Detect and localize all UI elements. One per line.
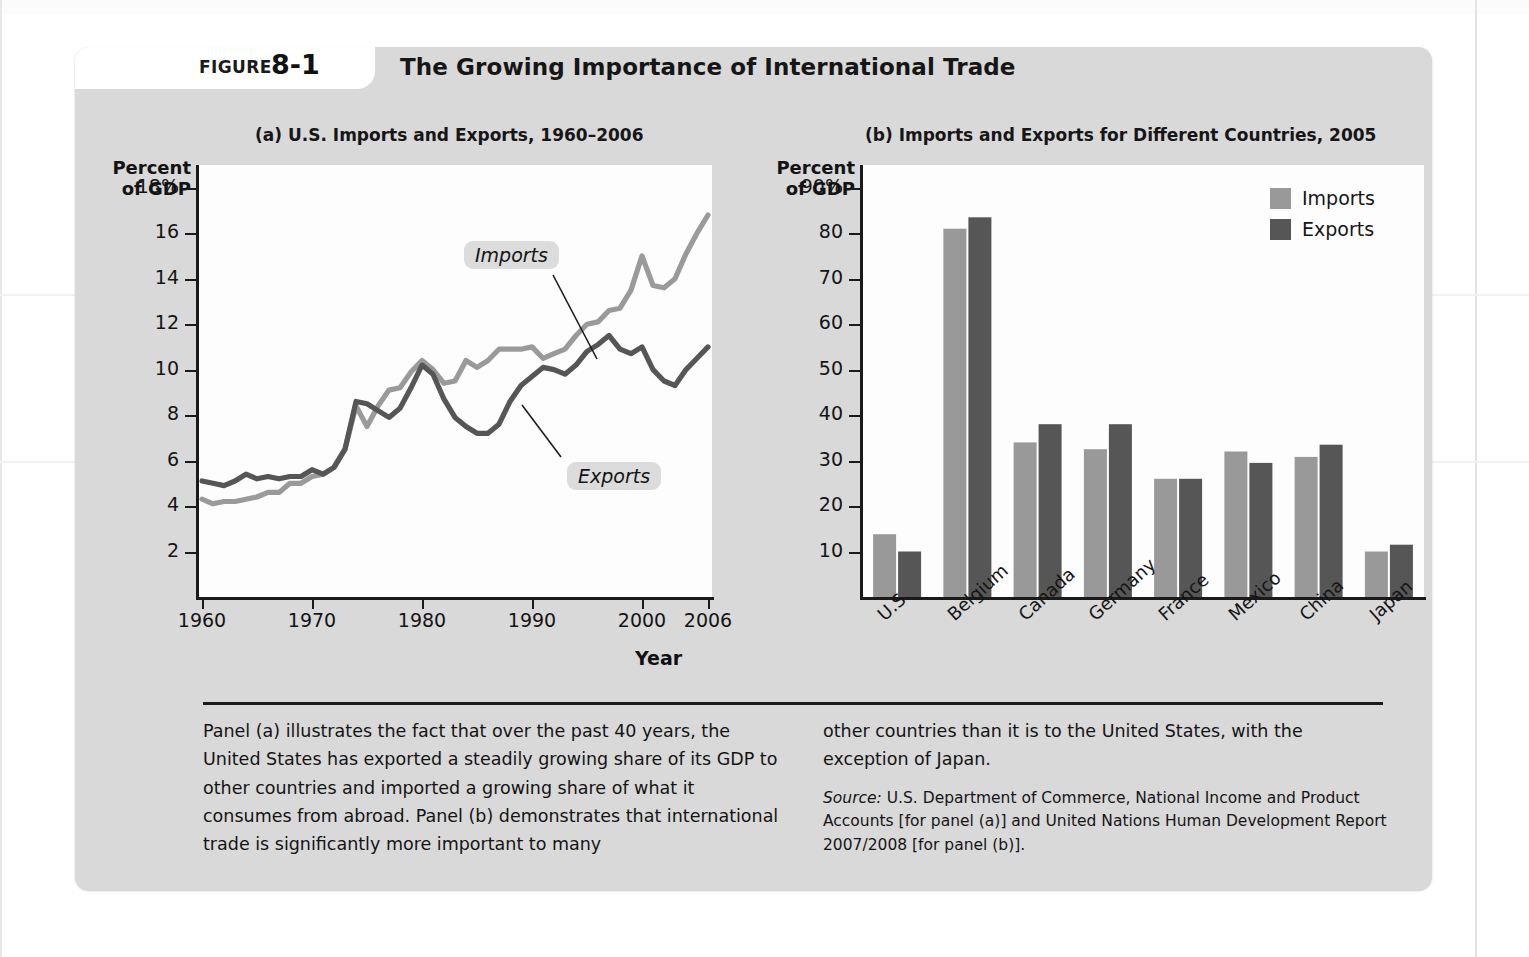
page-edge-right xyxy=(1475,0,1477,957)
panel-a-x-tick xyxy=(642,597,644,609)
panel-a-y-tick-label: 10 xyxy=(115,357,179,379)
panel-b-y-tick xyxy=(849,415,861,417)
panel-b-y-tick-label: 80 xyxy=(775,220,843,242)
panel-a-x-axis-name: Year xyxy=(635,647,682,669)
panel-a-x-tick-label: 1990 xyxy=(492,609,572,631)
figure-number: 8-1 xyxy=(271,49,320,80)
panel-a-y-tick-label: 14 xyxy=(115,266,179,288)
panel-a-y-tick xyxy=(185,188,197,190)
panel-a-x-tick-label: 2006 xyxy=(668,609,748,631)
panel-a-x-tick-label: 1960 xyxy=(162,609,242,631)
panel-b-y-tick xyxy=(849,461,861,463)
panel-b-y-tick xyxy=(849,233,861,235)
panel-b-x-axis xyxy=(860,597,1426,600)
panel-b-y-tick xyxy=(849,370,861,372)
panel-a-y-tick-label: 8 xyxy=(115,402,179,424)
scan-artifact-top xyxy=(0,0,1529,14)
panel-b-y-tick-label: 50 xyxy=(775,357,843,379)
panel-a-y-tick-label: 12 xyxy=(115,311,179,333)
panel-b-y-tick-label: 30 xyxy=(775,448,843,470)
panel-a-y-tick xyxy=(185,461,197,463)
panel-b-title: (b) Imports and Exports for Different Co… xyxy=(865,125,1376,145)
source-note: Source: U.S. Department of Commerce, Nat… xyxy=(823,787,1393,857)
callout-exports: Exports xyxy=(567,462,661,490)
figure-label: FIGURE xyxy=(199,57,272,77)
panel-b-legend: ImportsExports xyxy=(1270,187,1375,249)
panel-a-y-tick xyxy=(185,552,197,554)
legend-item: Exports xyxy=(1270,218,1375,240)
panel-a-y-tick xyxy=(185,233,197,235)
caption-left-column: Panel (a) illustrates the fact that over… xyxy=(203,717,781,859)
panel-a-y-tick-label: 4 xyxy=(115,493,179,515)
panel-a-x-tick xyxy=(202,597,204,609)
panel-b-y-tick-label: 90% xyxy=(775,175,843,197)
panel-a-y-tick-label: 2 xyxy=(115,539,179,561)
panel-a-y-tick xyxy=(185,370,197,372)
legend-swatch xyxy=(1270,188,1291,209)
caption-right-column: other countries than it is to the United… xyxy=(823,717,1383,774)
legend-item: Imports xyxy=(1270,187,1375,209)
panel-a-y-tick-label: 18% xyxy=(115,175,179,197)
panel-a-plot-area xyxy=(198,165,712,597)
panel-a-y-tick xyxy=(185,506,197,508)
panel-b-y-tick-label: 10 xyxy=(775,539,843,561)
panel-a-x-tick-label: 1970 xyxy=(272,609,352,631)
panel-a-y-tick xyxy=(185,279,197,281)
panel-a-x-tick xyxy=(532,597,534,609)
caption-divider xyxy=(203,702,1383,705)
legend-label: Exports xyxy=(1302,218,1374,240)
panel-b-y-tick xyxy=(849,506,861,508)
panel-b-y-tick-label: 60 xyxy=(775,311,843,333)
panel-a-x-axis xyxy=(196,597,714,600)
figure-title: The Growing Importance of International … xyxy=(400,54,1016,80)
legend-swatch xyxy=(1270,219,1291,240)
legend-label: Imports xyxy=(1302,187,1375,209)
panel-a-title: (a) U.S. Imports and Exports, 1960–2006 xyxy=(255,125,643,145)
panel-a-line-chart xyxy=(198,165,712,597)
page-edge-left xyxy=(0,0,2,957)
figure-container: FIGURE 8-1 The Growing Importance of Int… xyxy=(75,47,1432,890)
panel-a-x-tick xyxy=(708,597,710,609)
panel-b-y-tick xyxy=(849,324,861,326)
panel-a-y-tick-label: 6 xyxy=(115,448,179,470)
panel-b-y-tick-label: 70 xyxy=(775,266,843,288)
panel-a-y-tick xyxy=(185,324,197,326)
panel-a-y-tick xyxy=(185,415,197,417)
panel-b-y-tick-label: 40 xyxy=(775,402,843,424)
source-label: Source: xyxy=(823,789,882,807)
panel-b-y-axis xyxy=(860,165,863,599)
panel-b-y-tick xyxy=(849,552,861,554)
panel-b-y-tick xyxy=(849,188,861,190)
panel-a-y-axis xyxy=(196,165,199,599)
source-body: U.S. Department of Commerce, National In… xyxy=(823,789,1387,854)
panel-a-x-tick xyxy=(422,597,424,609)
panel-a-y-tick-label: 16 xyxy=(115,220,179,242)
panel-b-y-tick xyxy=(849,279,861,281)
panel-a-x-tick-label: 1980 xyxy=(382,609,462,631)
panel-b-y-tick-label: 20 xyxy=(775,493,843,515)
panel-a-x-tick xyxy=(312,597,314,609)
callout-imports: Imports xyxy=(464,241,559,269)
